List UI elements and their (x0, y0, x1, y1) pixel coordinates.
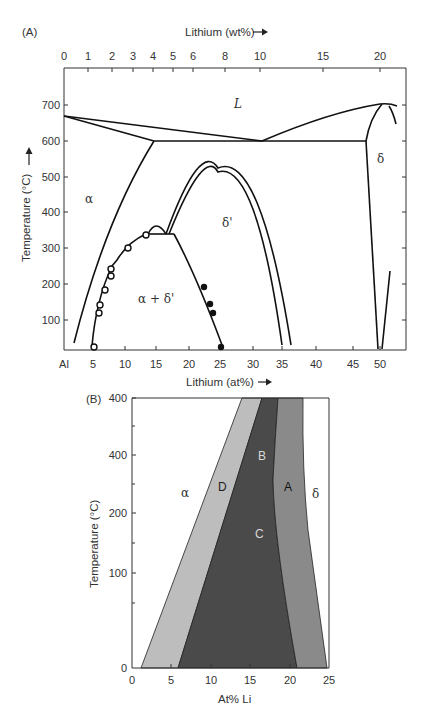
bottom-tick-label: 35 (276, 358, 288, 370)
bottom-tick-label: 10 (119, 358, 131, 370)
top-tick-label: 1 (85, 50, 91, 62)
region-label-b: B (258, 449, 266, 463)
open-circle-markers (91, 232, 149, 350)
panel-b-label: (B) (86, 393, 102, 405)
y-axis-arrow-icon (26, 147, 33, 165)
region-label-a: A (284, 480, 292, 494)
top-tick-label: 0 (61, 50, 67, 62)
phase-label-liquid: L (233, 97, 242, 111)
y-axis-label: Temperature (°C) (20, 174, 32, 262)
bottom-tick-label: 40 (310, 358, 322, 370)
panel-b: (B) 400 400 200 (86, 392, 335, 705)
top-tick-label: 8 (222, 50, 228, 62)
region-label-delta: δ (312, 487, 319, 501)
bottom-tick-label: 15 (150, 358, 162, 370)
panel-a: (A) Lithium (wt%) 0 1 2 3 4 5 6 8 10 15 … (20, 26, 406, 388)
phase-label-delta: δ (377, 152, 384, 166)
region-shapes (141, 398, 327, 668)
top-axis-label: Lithium (wt%) (185, 26, 255, 38)
bottom-axis-arrow-icon (258, 379, 272, 386)
panel-b-y-tick-label: 400 (109, 392, 127, 404)
panel-b-y-tick-label: 0 (121, 662, 127, 674)
bottom-tick-label: 30 (247, 358, 259, 370)
panel-b-x-tick-label: 15 (244, 674, 256, 686)
bottom-tick-label: 45 (347, 358, 359, 370)
region-label-c: C (255, 527, 264, 541)
panel-b-x-tick-label: 10 (205, 674, 217, 686)
phase-label-alpha: α (85, 192, 93, 206)
region-label-alpha: α (181, 486, 189, 500)
top-tick-label: 2 (109, 50, 115, 62)
panel-b-y-tick-label: 200 (109, 507, 127, 519)
panel-b-x-tick-label: 0 (129, 674, 135, 686)
top-tick-label: 15 (317, 50, 329, 62)
top-tick-label: 5 (170, 50, 176, 62)
top-tick-label: 10 (254, 50, 266, 62)
panel-b-x-tick-label: 25 (323, 674, 335, 686)
top-tick-label: 20 (374, 50, 386, 62)
y-tick-label: 100 (42, 314, 60, 326)
bottom-tick-label: 25 (214, 358, 226, 370)
panel-b-y-axis-label: Temperature (°C) (88, 500, 100, 588)
top-axis-arrow-icon (253, 29, 268, 36)
y-tick-label: 500 (42, 171, 60, 183)
bottom-tick-label: Al (59, 358, 69, 370)
y-tick-label: 300 (42, 242, 60, 254)
y-tick-label: 600 (42, 135, 60, 147)
phase-label-delta-prime: δ' (222, 216, 233, 230)
bottom-tick-label: 20 (183, 358, 195, 370)
panel-a-label: (A) (22, 26, 38, 38)
top-tick-label: 4 (150, 50, 156, 62)
figure-canvas: (A) Lithium (wt%) 0 1 2 3 4 5 6 8 10 15 … (0, 0, 424, 718)
top-axis-ticks: 0 1 2 3 4 5 6 8 10 15 20 (61, 50, 386, 72)
panel-b-x-axis-label: At% Li (218, 693, 251, 705)
region-label-d: D (218, 480, 227, 494)
panel-b-y-tick-label: 400 (109, 449, 127, 461)
y-tick-label: 700 (42, 99, 60, 111)
panel-b-x-tick-label: 5 (168, 674, 174, 686)
panel-b-y-tick-label: 100 (109, 567, 127, 579)
phase-label-alpha-delta-prime: α + δ' (138, 292, 174, 306)
y-tick-label: 400 (42, 206, 60, 218)
top-tick-label: 3 (130, 50, 136, 62)
bottom-tick-label: 50 (374, 358, 386, 370)
right-axis-ticks (402, 105, 406, 320)
bottom-axis-label: Lithium (at%) (186, 376, 254, 388)
bottom-tick-label: 5 (90, 358, 96, 370)
panel-b-x-tick-label: 20 (284, 674, 296, 686)
top-tick-label: 6 (190, 50, 196, 62)
y-tick-label: 200 (42, 278, 60, 290)
